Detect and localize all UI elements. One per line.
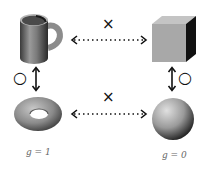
sphere-genus-label: g = 0 — [162, 150, 187, 160]
sphere-icon — [150, 96, 196, 142]
right-circle-mark: ○ — [178, 70, 192, 86]
bottom-cross-mark: × — [102, 90, 115, 105]
bottom-dotted-double-arrow — [70, 108, 148, 120]
mug-icon — [14, 8, 66, 66]
left-vertical-double-arrow — [31, 66, 41, 92]
top-cross-mark: × — [102, 17, 115, 32]
top-dotted-double-arrow — [70, 34, 148, 46]
left-circle-mark: ○ — [13, 70, 27, 86]
torus-icon — [12, 94, 64, 134]
right-vertical-double-arrow — [167, 66, 177, 92]
torus-genus-label: g = 1 — [26, 147, 51, 157]
cube-icon — [148, 12, 200, 64]
